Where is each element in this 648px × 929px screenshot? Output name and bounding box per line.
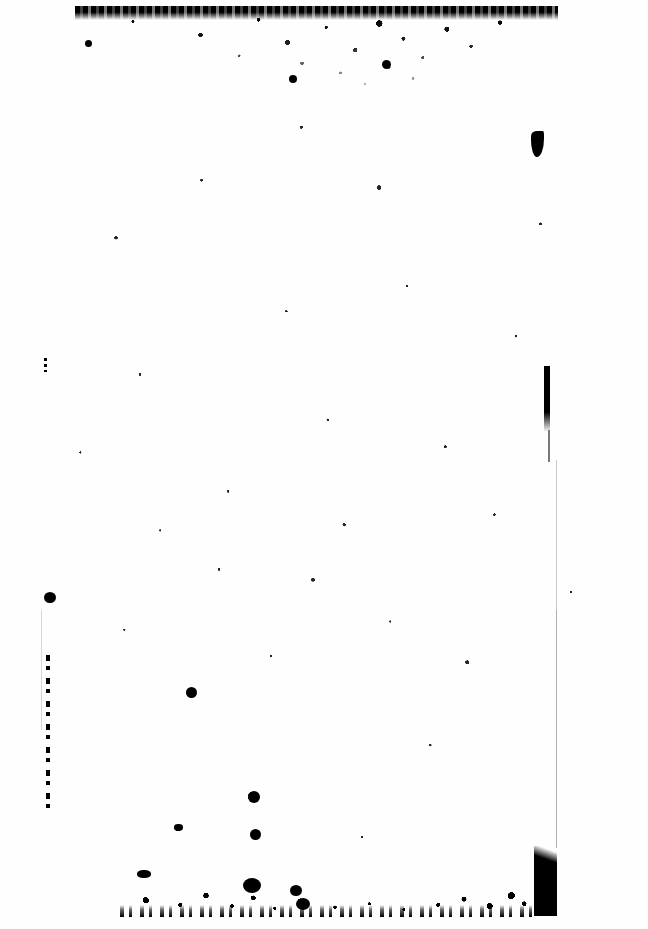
page-text-content [60,60,560,860]
scanned-page [0,0,648,929]
